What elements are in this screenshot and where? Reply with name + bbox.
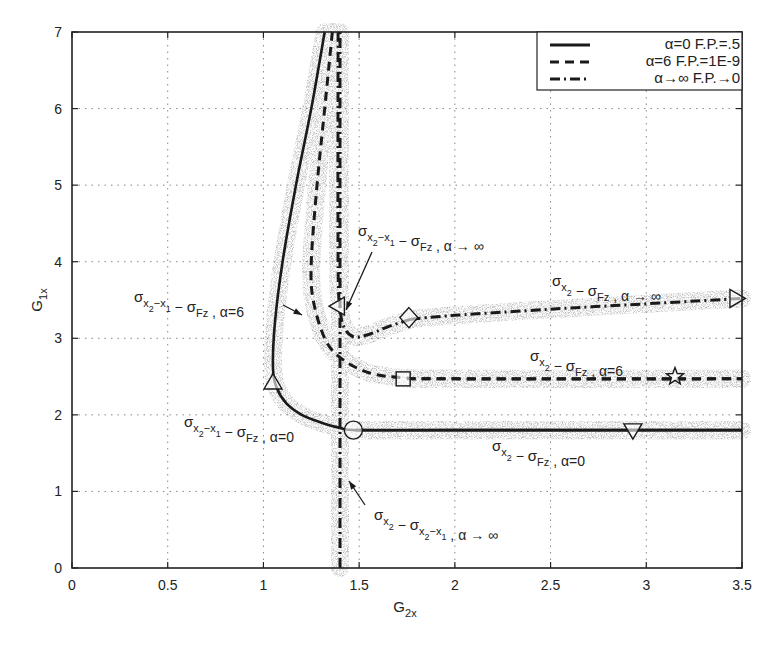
arrowhead-icon (293, 308, 302, 315)
x-tick-label: 0 (68, 577, 76, 593)
annotation-label: σx2−x1 − σFz , α → ∞ (358, 222, 484, 254)
x-tick-label: 3.5 (732, 577, 752, 593)
annotation-label: σx2 − σx2−x1 , α → ∞ (374, 506, 498, 543)
y-axis-label: G1x (28, 288, 49, 312)
x-axis-label: G2x (393, 598, 417, 619)
arrowhead-icon (346, 301, 352, 310)
legend-entry: α→∞ F.P.→0 (654, 69, 740, 86)
x-tick-label: 1.5 (349, 577, 369, 593)
y-tick-label: 5 (54, 177, 62, 193)
y-tick-label: 3 (54, 330, 62, 346)
chart-figure: 00.511.522.533.501234567 σx2−x1 − σFz , … (0, 0, 783, 648)
x-tick-label: 0.5 (158, 577, 178, 593)
y-tick-label: 7 (54, 24, 62, 40)
y-tick-label: 6 (54, 101, 62, 117)
x-tick-label: 2 (451, 577, 459, 593)
x-tick-label: 1 (260, 577, 268, 593)
legend-entry: α=6 F.P.=1E-9 (646, 52, 740, 69)
arrowhead-icon (349, 481, 356, 490)
y-tick-label: 1 (54, 483, 62, 499)
legend-entry: α=0 F.P.=.5 (665, 35, 740, 52)
y-tick-label: 2 (54, 407, 62, 423)
circle-marker (344, 421, 362, 439)
y-tick-label: 4 (54, 254, 62, 270)
y-tick-label: 0 (54, 560, 62, 576)
annotation-label: σx2−x1 − σFz , α=0 (184, 413, 294, 445)
x-tick-label: 2.5 (541, 577, 561, 593)
annotation-label: σx2−x1 − σFz , α=6 (134, 288, 244, 320)
square-marker (396, 372, 410, 386)
x-tick-label: 3 (642, 577, 650, 593)
legend: α=0 F.P.=.5α=6 F.P.=1E-9α→∞ F.P.→0 (537, 32, 742, 90)
chart-canvas: 00.511.522.533.501234567 σx2−x1 − σFz , … (0, 0, 783, 648)
annotation-label: σx2 − σFz , α=0 (492, 437, 585, 469)
